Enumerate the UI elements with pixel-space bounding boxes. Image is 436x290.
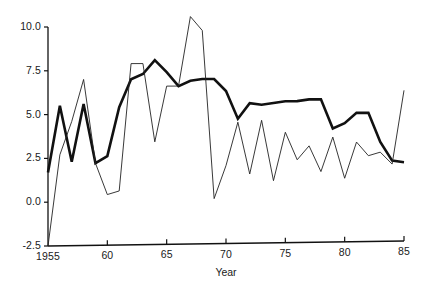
y-tick-label: 10.0 — [20, 20, 41, 32]
series-line-thin-series — [48, 17, 404, 246]
x-axis-title: Year — [166, 266, 286, 278]
axis-ticks — [44, 27, 404, 246]
y-tick-label: 5.0 — [26, 108, 41, 120]
y-tick-label: 0.0 — [26, 195, 41, 207]
line-chart: -2.50.02.55.07.510.01955606570758085 Yea… — [0, 0, 436, 290]
y-tick-label: 7.5 — [26, 64, 41, 76]
series-line-thick-series — [48, 60, 404, 172]
x-tick-label: 60 — [77, 249, 137, 261]
data-series-group — [48, 17, 404, 246]
x-tick-label: 70 — [196, 248, 256, 260]
x-tick-label: 1955 — [18, 250, 78, 262]
x-tick-label: 85 — [374, 245, 434, 257]
y-tick-label: 2.5 — [26, 151, 41, 163]
axis-lines — [48, 27, 404, 246]
x-tick-label: 65 — [137, 248, 197, 260]
x-tick-label: 80 — [315, 246, 375, 258]
x-tick-label: 75 — [255, 247, 315, 259]
